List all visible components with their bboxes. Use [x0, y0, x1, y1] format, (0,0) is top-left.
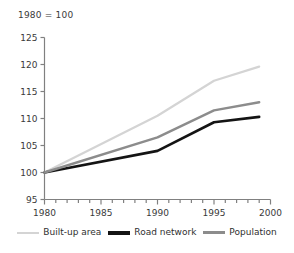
legend-label: Built-up area	[43, 228, 101, 237]
chart-legend: Built-up areaRoad networkPopulation	[0, 228, 294, 237]
series-line	[45, 102, 260, 172]
y-axis-ticks: 95100105110115120125	[20, 33, 44, 205]
legend-swatch-icon	[108, 231, 130, 235]
x-tick-label: 2000	[259, 208, 282, 218]
y-tick-label: 105	[20, 141, 37, 151]
x-tick-label: 1990	[146, 208, 169, 218]
legend-swatch-icon	[203, 231, 225, 234]
x-tick-label: 1985	[90, 208, 113, 218]
legend-label: Population	[229, 228, 276, 237]
legend-item[interactable]: Population	[203, 228, 276, 237]
x-tick-label: 1995	[203, 208, 226, 218]
legend-label: Road network	[134, 228, 196, 237]
legend-item[interactable]: Road network	[108, 228, 196, 237]
y-tick-label: 115	[20, 87, 37, 97]
legend-item[interactable]: Built-up area	[17, 228, 101, 237]
y-tick-label: 125	[20, 33, 37, 43]
chart-container: 1980 = 100 95100105110115120125 19801985…	[0, 0, 294, 253]
y-tick-label: 100	[20, 168, 37, 178]
x-axis-ticks: 19801985199019952000	[33, 200, 282, 218]
y-tick-label: 120	[20, 60, 37, 70]
line-chart-plot: 95100105110115120125 1980198519901995200…	[0, 0, 294, 253]
x-tick-label: 1980	[33, 208, 56, 218]
chart-series	[45, 67, 260, 173]
series-line	[45, 117, 260, 173]
y-tick-label: 95	[26, 195, 37, 205]
y-tick-label: 110	[20, 114, 37, 124]
legend-swatch-icon	[17, 232, 39, 234]
